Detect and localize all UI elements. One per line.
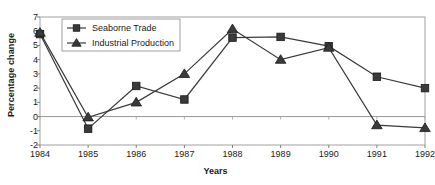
data-point-marker-triangle	[227, 24, 238, 33]
x-tick-label: 1984	[30, 150, 50, 159]
data-point-marker-square	[84, 125, 92, 132]
x-tick-label: 1987	[174, 150, 194, 159]
data-point-marker-square	[229, 34, 237, 42]
data-point-marker-square	[373, 73, 381, 81]
x-tick-label: 1989	[271, 150, 291, 159]
x-axis-tick-marks	[40, 117, 425, 148]
x-tick-label: 1985	[78, 150, 98, 159]
legend-label: Industrial Production	[92, 38, 174, 48]
chart-legend: Seaborne TradeIndustrial Production	[62, 19, 180, 51]
x-tick-label: 1991	[367, 150, 387, 159]
x-tick-label: 1988	[222, 150, 242, 159]
legend-label: Seaborne Trade	[92, 23, 157, 33]
x-tick-label: 1992	[415, 150, 435, 159]
x-axis-title: Years	[0, 166, 431, 176]
data-point-marker-square	[181, 96, 189, 104]
data-point-marker-triangle	[372, 120, 383, 129]
legend-square-icon	[73, 25, 80, 32]
data-point-marker-square	[421, 84, 429, 92]
data-point-marker-triangle	[131, 97, 142, 106]
data-point-marker-square	[277, 33, 285, 41]
x-tick-label: 1990	[319, 150, 339, 159]
x-tick-label: 1986	[126, 150, 146, 159]
data-point-marker-square	[133, 82, 141, 90]
